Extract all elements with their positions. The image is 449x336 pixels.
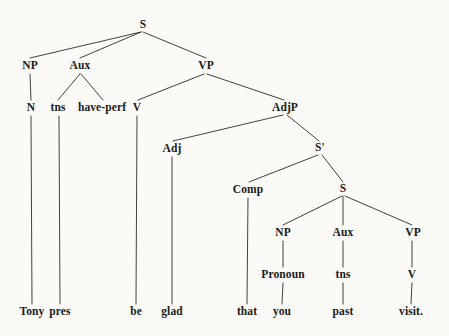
tree-edge-e-v-be	[136, 116, 137, 304]
tree-terminal-word-past: past	[333, 306, 354, 318]
tree-node-s-embedded: S	[340, 183, 347, 195]
tree-node-np-embedded: NP	[275, 227, 291, 239]
tree-terminal-word-visit: visit.	[399, 306, 423, 318]
tree-edge-e-v2-visit	[411, 283, 412, 304]
tree-edge-e-comp-that	[247, 198, 248, 304]
tree-terminal-word-pres: pres	[49, 306, 70, 318]
tree-node-s-bar: S'	[315, 142, 325, 154]
tree-edge-e-adjp-sbar	[287, 115, 319, 141]
tree-edge-e-aux-haveperf	[81, 74, 103, 100]
tree-terminal-word-glad: glad	[161, 306, 183, 318]
tree-terminal-word-you: you	[273, 306, 291, 318]
syntax-tree-figure: SNPAuxVPNtnshave-perfVAdjPAdjS'CompSNPAu…	[0, 0, 449, 336]
tree-terminal-word-tony: Tony	[20, 306, 45, 318]
tree-terminal-word-that: that	[237, 306, 257, 318]
tree-edge-e-s2-vp	[345, 196, 412, 225]
tree-node-np-matrix: NP	[22, 60, 38, 72]
tree-edge-e-s-np	[30, 32, 141, 58]
tree-edge-e-s-aux	[80, 32, 141, 58]
tree-edge-e-np-n	[30, 74, 31, 100]
tree-node-v-matrix: V	[133, 102, 141, 114]
tree-terminal-word-be: be	[130, 306, 142, 318]
tree-edge-e-sbar-s	[322, 155, 343, 182]
tree-edge-layer	[0, 0, 449, 336]
tree-node-n-matrix: N	[27, 102, 35, 114]
tree-edge-e-n-tony	[31, 116, 32, 304]
tree-node-have-perf: have-perf	[78, 102, 126, 114]
tree-edge-e-aux-tns	[58, 74, 80, 100]
tree-edge-e-vp-v	[138, 74, 204, 100]
tree-node-v-embedded: V	[408, 269, 416, 281]
tree-node-adj: Adj	[163, 143, 182, 155]
tree-node-s-root: S	[140, 19, 147, 31]
tree-node-tns-embedded: tns	[335, 269, 350, 281]
tree-node-pronoun: Pronoun	[261, 269, 304, 281]
tree-edge-e-pronoun-you	[282, 283, 283, 304]
tree-edge-e-vp-adjp	[207, 74, 284, 100]
tree-node-aux-matrix: Aux	[70, 60, 91, 72]
tree-node-tns-matrix: tns	[50, 102, 65, 114]
tree-edge-e-s2-np	[283, 196, 342, 225]
tree-edge-e-adjp-adj	[173, 115, 283, 141]
tree-edge-e-s-vp	[143, 32, 206, 58]
tree-node-vp-matrix: VP	[198, 60, 214, 72]
tree-node-comp: Comp	[233, 184, 263, 196]
tree-node-vp-embedded: VP	[405, 227, 421, 239]
tree-node-adjp: AdjP	[272, 102, 298, 114]
tree-node-aux-embedded: Aux	[333, 227, 354, 239]
tree-edge-e-tns-pres	[59, 116, 60, 304]
tree-edge-e-sbar-comp	[249, 155, 318, 182]
